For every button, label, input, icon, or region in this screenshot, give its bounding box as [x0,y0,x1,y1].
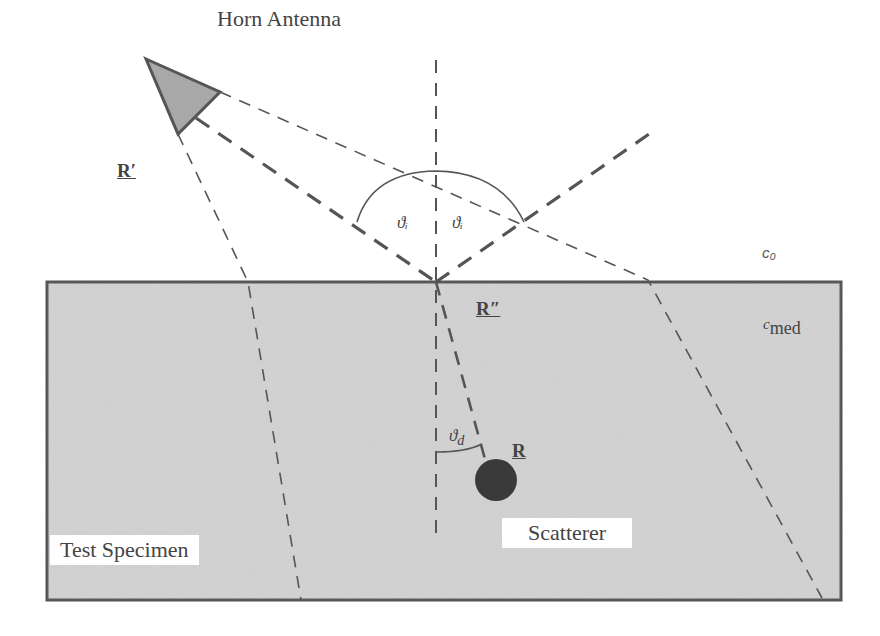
cmed-subscript: med [770,318,801,338]
antenna-scattering-diagram: Horn Antenna Test Specimen Scatterer R′ … [0,0,880,636]
theta-d-label: ϑd [449,426,464,449]
horn-antenna-label: Horn Antenna [217,6,341,32]
scatterer-label: Scatterer [502,518,632,548]
c0-label: c₀ [762,244,776,261]
cmed-label: cmed [763,318,801,339]
theta-i-left-label: ϑᵢ [397,213,408,233]
incident-ray [196,118,436,282]
horn-antenna-icon [146,59,220,134]
theta-i-right-label: ϑᵢ [452,213,463,233]
cmed-c: c [763,316,770,332]
reflected-ray [436,132,652,282]
r-vector-label: R [512,440,526,462]
scatterer-icon [475,459,517,501]
r-prime-vector-label: R′ [117,160,136,182]
r-double-prime-vector-label: R″ [476,298,500,320]
test-specimen-label: Test Specimen [50,535,199,565]
theta-d-subscript: d [457,432,464,448]
